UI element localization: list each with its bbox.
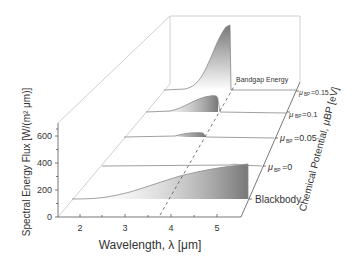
series-mu-0.1 xyxy=(146,96,286,113)
y-tick: 400 xyxy=(37,158,52,168)
y-tick: 600 xyxy=(37,131,52,141)
x-tick-labels: 2 3 4 5 xyxy=(77,223,219,233)
series-label-mu-0.15: μ BP =0.15 xyxy=(298,89,329,97)
svg-text:μ: μ xyxy=(298,89,303,97)
svg-text:BP: BP xyxy=(274,167,281,173)
waterfall-chart: 0 200 400 600 2 3 4 5 Wavelength, λ [μm]… xyxy=(0,0,363,263)
y-tick-labels: 0 200 400 600 xyxy=(37,131,52,222)
x-axis-title: Wavelength, λ [μm] xyxy=(99,238,202,252)
svg-text:=0.1: =0.1 xyxy=(302,110,318,119)
x-tick: 2 xyxy=(77,223,82,233)
y-tick: 200 xyxy=(37,185,52,195)
series-label-blackbody: Blackbody xyxy=(255,194,301,205)
x-tick: 5 xyxy=(214,223,219,233)
svg-text:=0.15: =0.15 xyxy=(311,89,329,96)
x-tick: 3 xyxy=(122,223,127,233)
y-tick: 0 xyxy=(47,212,52,222)
bandgap-label: Bandgap Energy xyxy=(236,76,289,84)
svg-text:μ: μ xyxy=(279,133,285,143)
svg-text:BP: BP xyxy=(286,138,293,144)
y-axis-title: Spectral Energy Flux [W/(m² μm)] xyxy=(21,88,32,237)
z-axis-title: Chemical Potential, μBP [eV] xyxy=(297,85,341,212)
x-tick: 4 xyxy=(168,223,173,233)
series-mu-0.05 xyxy=(124,133,274,138)
series-label-mu-0.1: μ BP =0.1 xyxy=(288,110,318,119)
svg-text:=0: =0 xyxy=(282,162,292,172)
series-label-mu-0: μ BP =0 xyxy=(267,162,292,173)
svg-text:μ: μ xyxy=(267,162,273,172)
svg-text:μ: μ xyxy=(288,110,294,119)
series-label-mu-0.05: μ BP =0.05 xyxy=(279,133,317,144)
svg-text:=0.05: =0.05 xyxy=(294,133,317,143)
svg-text:BP: BP xyxy=(304,92,310,97)
